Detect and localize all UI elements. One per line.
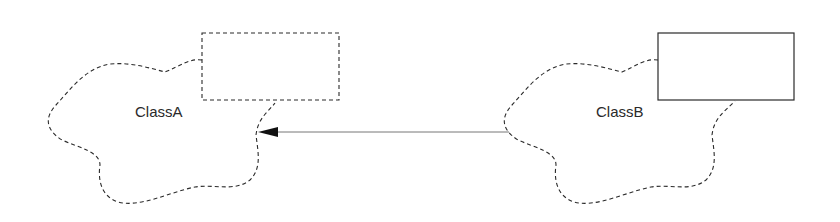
association-arrow[interactable] xyxy=(258,127,509,137)
class-a-label: ClassA xyxy=(135,103,183,120)
class-a-cloud xyxy=(48,60,275,204)
class-b[interactable]: ClassB xyxy=(504,33,794,203)
class-a[interactable]: ClassA xyxy=(48,33,339,203)
class-b-label: ClassB xyxy=(596,103,644,120)
arrowhead-icon xyxy=(258,127,278,137)
diagram-canvas: ClassA ClassB xyxy=(0,0,840,222)
class-a-adornment-box xyxy=(202,33,339,100)
class-b-adornment-box xyxy=(658,33,794,100)
